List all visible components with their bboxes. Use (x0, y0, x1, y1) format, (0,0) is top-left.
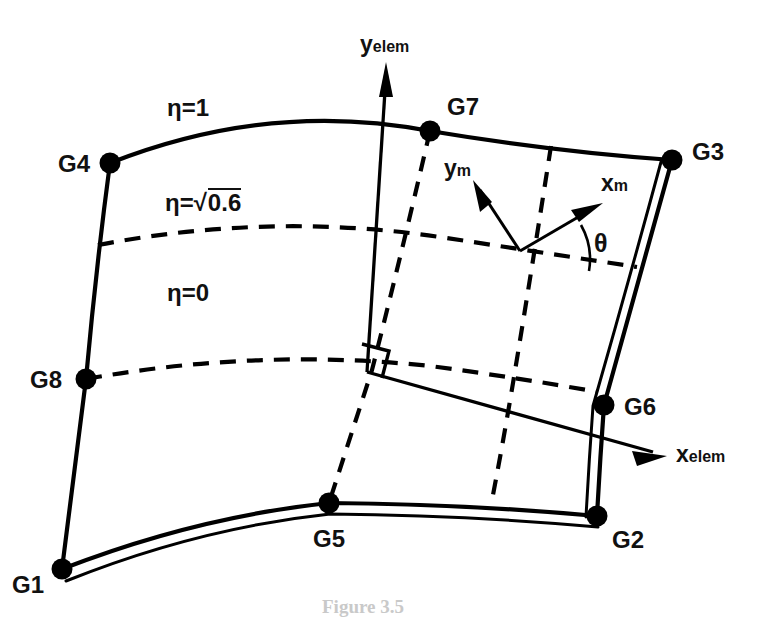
node-label-g7: G7 (447, 95, 479, 119)
figure-caption: Figure 3.5 (322, 596, 404, 618)
node-dot-g4 (100, 153, 121, 174)
node-dot-g8 (76, 369, 97, 390)
axis-label-x-m-subscript: m (614, 177, 628, 194)
node-dot-g5 (319, 493, 340, 514)
sqrt-symbol-group: √0.6 (194, 188, 242, 215)
node-label-g2: G2 (612, 528, 644, 552)
node-label-g8: G8 (30, 368, 62, 392)
axis-label-y-m-base: y (444, 155, 457, 181)
eta-label-sqrt-point-six: η=√0.6 (165, 188, 241, 215)
theta-angle-arc (581, 225, 590, 271)
axis-y-m-arrowhead (473, 180, 492, 212)
eta-label-zero: η=0 (167, 281, 209, 305)
axis-label-x-elem: xelem (676, 443, 725, 466)
sqrt-radicand: 0.6 (208, 188, 241, 215)
axis-y-elem-arrowhead (379, 62, 393, 97)
node-label-g3: G3 (692, 140, 724, 164)
node-label-g6: G6 (624, 395, 656, 419)
node-dot-g1 (52, 559, 73, 580)
node-dot-g3 (662, 150, 683, 171)
edge-top-g4-g7-g3 (110, 121, 672, 163)
iso-curve-xi-right (492, 146, 551, 500)
axis-label-x-elem-base: x (676, 441, 689, 467)
axis-label-x-m: xm (601, 172, 628, 195)
iso-curve-eta-sqrt06 (98, 226, 637, 267)
axis-label-x-m-base: x (601, 170, 614, 196)
node-dot-g6 (594, 395, 615, 416)
node-label-g1: G1 (12, 573, 44, 597)
axis-x-elem-arrowhead (632, 451, 667, 466)
axis-y-elem-line (367, 75, 386, 372)
eta-sqrt-prefix: η= (165, 189, 194, 216)
axis-label-y-elem: yelem (360, 33, 409, 56)
axis-label-y-elem-subscript: elem (373, 38, 409, 55)
edge-left-g4-g8-g1 (62, 163, 110, 569)
axis-label-y-m-subscript: m (457, 162, 471, 179)
iso-curve-eta-0 (86, 359, 598, 392)
axis-label-x-elem-subscript: elem (689, 448, 725, 465)
theta-label: θ (594, 231, 608, 256)
node-dot-g2 (587, 506, 608, 527)
edge-right-g3-g6-g2-outer (597, 160, 672, 516)
node-dot-g7 (420, 121, 441, 142)
eta-label-one: η=1 (167, 96, 209, 120)
axis-label-y-m: ym (444, 157, 471, 180)
node-label-g4: G4 (58, 152, 90, 176)
sqrt-radical-icon: √ (194, 189, 207, 216)
node-label-g5: G5 (313, 527, 345, 551)
axis-label-y-elem-base: y (360, 31, 373, 57)
